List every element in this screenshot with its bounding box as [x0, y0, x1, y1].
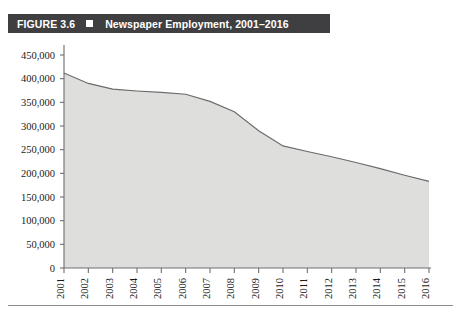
y-axis-tick-labels: 050,000100,000150,000200,000250,000300,0…	[21, 50, 55, 274]
y-tick-label: 200,000	[21, 168, 55, 179]
x-tick-label: 2016	[420, 278, 431, 299]
x-tick-label: 2015	[396, 278, 407, 299]
filled-square-icon	[86, 20, 93, 27]
figure-title-text: Newspaper Employment, 2001–2016	[105, 18, 288, 30]
y-tick-label: 150,000	[21, 192, 55, 203]
chart-plot-area: 050,000100,000150,000200,000250,000300,0…	[0, 38, 461, 300]
y-tick-label: 100,000	[21, 215, 55, 226]
y-tick-label: 0	[50, 263, 55, 274]
x-tick-label: 2011	[298, 278, 309, 299]
series-area-fill	[64, 73, 429, 268]
y-axis-tick-marks	[60, 55, 64, 268]
x-tick-label: 2001	[55, 278, 66, 299]
y-tick-label: 50,000	[26, 239, 55, 250]
x-tick-label: 2004	[128, 277, 139, 299]
x-tick-label: 2005	[152, 278, 163, 299]
area-chart-svg: 050,000100,000150,000200,000250,000300,0…	[0, 38, 461, 300]
x-tick-label: 2007	[201, 278, 212, 299]
x-tick-label: 2010	[274, 278, 285, 299]
y-tick-label: 250,000	[21, 144, 55, 155]
y-tick-label: 400,000	[21, 73, 55, 84]
x-tick-label: 2006	[177, 278, 188, 299]
y-tick-label: 300,000	[21, 121, 55, 132]
x-tick-label: 2014	[371, 277, 382, 299]
x-tick-label: 2002	[79, 278, 90, 299]
x-tick-label: 2013	[347, 278, 358, 299]
x-tick-label: 2003	[104, 278, 115, 299]
y-tick-label: 450,000	[21, 50, 55, 61]
figure-number-label: FIGURE 3.6	[17, 18, 75, 30]
figure-bottom-divider	[8, 305, 453, 306]
x-tick-label: 2012	[323, 278, 334, 299]
x-tick-label: 2009	[250, 278, 261, 299]
x-axis-tick-marks	[64, 268, 429, 273]
figure-container: FIGURE 3.6 Newspaper Employment, 2001–20…	[0, 0, 461, 319]
y-tick-label: 350,000	[21, 97, 55, 108]
figure-title-bar: FIGURE 3.6 Newspaper Employment, 2001–20…	[8, 14, 330, 33]
x-axis-tick-labels: 2001200220032004200520062007200820092010…	[55, 277, 431, 299]
x-tick-label: 2008	[225, 278, 236, 299]
